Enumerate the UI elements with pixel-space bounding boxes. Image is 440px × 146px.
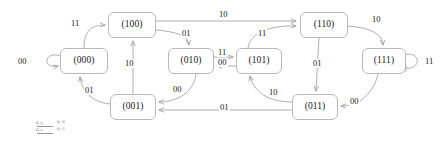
- edge-s000-s100: [84, 25, 105, 48]
- state-label: (100): [121, 20, 142, 30]
- edge-label-s101-s010: 00: [217, 58, 228, 67]
- edge-label-s011-s001: 01: [219, 103, 230, 112]
- state-diagram-canvas: (000) (100) (010) (101) (110) (111) (001…: [0, 0, 440, 146]
- legend-value: d₂=1: [57, 127, 65, 132]
- edge-label-s100-s010: 01: [181, 29, 192, 38]
- edge-label-s101-s110: 11: [257, 29, 267, 38]
- legend-line-icon: [37, 133, 53, 134]
- edge-label-s110-s111: 10: [371, 15, 382, 24]
- edge-s111-s011: [341, 74, 378, 106]
- state-node-111[interactable]: (111): [362, 48, 406, 74]
- edge-label-s000-self: 00: [17, 57, 28, 66]
- state-label: (101): [248, 56, 269, 66]
- state-node-010[interactable]: (010): [168, 48, 214, 74]
- state-label: (111): [374, 56, 394, 66]
- state-node-000[interactable]: (000): [60, 48, 108, 74]
- legend-value: d₂=0: [57, 120, 65, 125]
- edge-label-s111-s011: 00: [349, 97, 360, 106]
- legend-row: d₁ s₁ d₂=1: [36, 126, 65, 133]
- edge-label-s010-s101: 11: [217, 48, 227, 57]
- state-label: (000): [73, 56, 94, 66]
- legend: d₁ s₁ d₂=0 d₁ s₁ d₂=1: [36, 119, 65, 133]
- edge-label-s001-s000: 01: [84, 86, 95, 95]
- state-label: (011): [305, 102, 326, 112]
- state-node-110[interactable]: (110): [300, 12, 348, 38]
- edge-label-s110-s011: 01: [312, 59, 323, 68]
- legend-row: d₁ s₁ d₂=0: [36, 119, 65, 126]
- state-label: (010): [180, 56, 201, 66]
- state-label: (001): [122, 102, 143, 112]
- edge-s101-s110: [248, 26, 296, 48]
- edge-label-s011-s101: 10: [268, 88, 279, 97]
- edge-s000-self: [47, 55, 60, 67]
- state-node-011[interactable]: (011): [292, 94, 338, 120]
- edge-label-s001-s100: 10: [124, 59, 135, 68]
- edge-label-s000-s100: 11: [70, 19, 80, 28]
- edge-s110-s111: [348, 26, 383, 45]
- edge-label-s100-s110: 10: [218, 10, 229, 19]
- state-label: (110): [314, 20, 335, 30]
- edge-label-s111-self: 11: [424, 57, 434, 66]
- state-node-100[interactable]: (100): [108, 12, 156, 38]
- state-node-001[interactable]: (001): [110, 94, 156, 120]
- state-node-101[interactable]: (101): [236, 48, 282, 74]
- edge-label-s010-s001: 00: [172, 85, 183, 94]
